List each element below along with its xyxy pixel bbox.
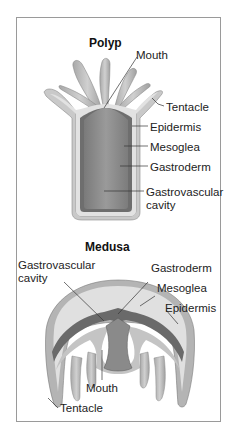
polyp-label-gastroderm: Gastroderm	[150, 161, 211, 173]
polyp-label-cavity-line2: cavity	[146, 199, 175, 211]
polyp-cavity	[84, 108, 128, 209]
polyp-label-mesoglea: Mesoglea	[150, 141, 200, 153]
medusa-label-cavity-line1: Gastrovascular	[18, 259, 95, 271]
polyp-label-tentacle: Tentacle	[166, 101, 209, 113]
polyp-title: Polyp	[89, 36, 122, 50]
cnidarian-body-forms-illustration	[0, 0, 233, 433]
polyp-tentacles	[59, 58, 150, 112]
polyp-label-epidermis: Epidermis	[150, 121, 201, 133]
medusa-label-cavity-line2: cavity	[18, 272, 47, 284]
medusa-illustration	[45, 280, 194, 408]
medusa-label-mesoglea: Mesoglea	[157, 282, 207, 294]
polyp-label-mouth: Mouth	[136, 49, 168, 61]
medusa-label-mouth: Mouth	[86, 382, 118, 394]
medusa-label-epidermis: Epidermis	[165, 302, 216, 314]
medusa-label-gastroderm: Gastroderm	[151, 262, 212, 274]
medusa-cavity	[104, 318, 132, 371]
polyp-label-cavity-line1: Gastrovascular	[146, 186, 223, 198]
medusa-label-tentacle: Tentacle	[60, 402, 103, 414]
medusa-title: Medusa	[85, 240, 130, 254]
